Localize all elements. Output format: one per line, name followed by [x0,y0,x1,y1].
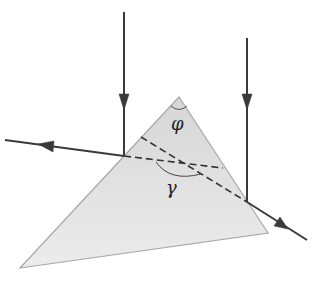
arrow-down-right-icon [274,217,288,229]
apex-angle-label: φ [171,113,184,134]
arrow-left-icon [38,141,54,152]
deviation-angle-label: γ [166,177,177,198]
prism [20,97,268,268]
arrow-down-icon [119,94,129,110]
prism-diagram: φ γ [0,0,319,291]
reflected-ray-left [5,140,124,156]
arrow-down-icon [242,94,252,110]
